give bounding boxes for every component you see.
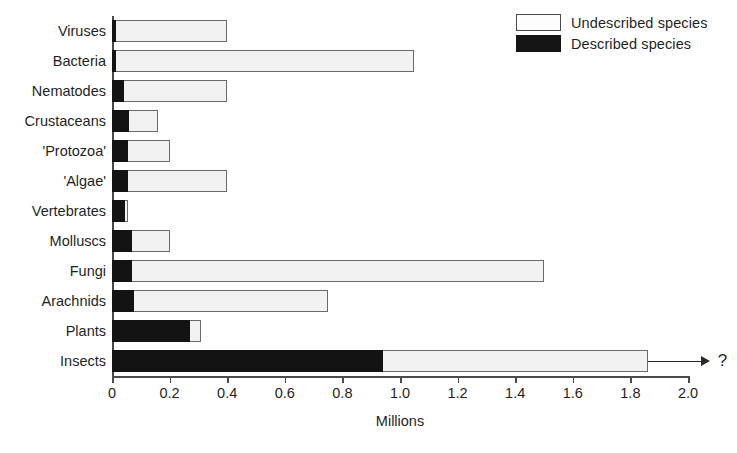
bar-row[interactable]: Plants [112,320,688,342]
bar-segment-described[interactable] [112,200,125,222]
x-tick-0 [112,376,114,383]
bar-segment-described[interactable] [112,290,134,312]
category-label-wrap: Molluscs [0,230,106,252]
category-label-wrap: Nematodes [0,80,106,102]
overflow-arrow-icon [648,350,710,372]
category-label-arachnids: Arachnids [0,290,106,312]
bar-segment-undescribed[interactable] [112,80,227,102]
bar-segment-undescribed[interactable] [112,20,227,42]
bar-row[interactable]: Crustaceans [112,110,688,132]
bar-row[interactable]: Fungi [112,260,688,282]
bar-segment-described[interactable] [112,20,116,42]
bar-row[interactable]: Nematodes [112,80,688,102]
bar-segment-described[interactable] [112,350,383,372]
x-tick-3 [285,376,287,383]
bar-segment-described[interactable] [112,80,124,102]
bar-row[interactable]: Arachnids [112,290,688,312]
x-tick-6 [458,376,460,383]
bar-row[interactable]: Viruses [112,20,688,42]
category-label-wrap: 'Protozoa' [0,140,106,162]
category-label-wrap: Crustaceans [0,110,106,132]
bar-segment-undescribed[interactable] [112,260,544,282]
bar-segment-undescribed[interactable] [112,290,328,312]
x-tick-4 [342,376,344,383]
bar-row[interactable]: 'Algae' [112,170,688,192]
bar-row[interactable]: Molluscs [112,230,688,252]
bar-segment-described[interactable] [112,260,132,282]
x-tick-10 [688,376,690,383]
overflow-question-mark: ? [718,350,727,372]
arrow-shaft [648,361,701,362]
x-tick-8 [573,376,575,383]
x-tick-2 [227,376,229,383]
bar-segment-described[interactable] [112,110,129,132]
bar-segment-described[interactable] [112,320,190,342]
x-tick-5 [400,376,402,383]
x-tick-label-2: 0.4 [217,385,237,401]
x-tick-label-9: 1.8 [620,385,640,401]
category-label-viruses: Viruses [0,20,106,42]
category-label-wrap: Plants [0,320,106,342]
x-tick-label-1: 0.2 [160,385,180,401]
category-label-wrap: 'Algae' [0,170,106,192]
x-tick-label-0: 0 [108,385,116,401]
bar-segment-described[interactable] [112,50,116,72]
x-tick-label-5: 1.0 [390,385,410,401]
plot-area: 00.20.40.60.81.01.21.41.61.82.0 VirusesB… [112,16,688,376]
arrow-head [701,356,710,366]
category-label-wrap: Vertebrates [0,200,106,222]
x-tick-1 [170,376,172,383]
bar-segment-described[interactable] [112,170,128,192]
bar-row[interactable]: Bacteria [112,50,688,72]
category-label-fungi: Fungi [0,260,106,282]
category-label-wrap: Fungi [0,260,106,282]
x-axis-title: Millions [112,413,688,429]
x-tick-label-10: 2.0 [678,385,698,401]
bar-row[interactable]: Insects? [112,350,688,372]
x-tick-7 [515,376,517,383]
bar-row[interactable]: 'Protozoa' [112,140,688,162]
category-label-protozoa: 'Protozoa' [0,140,106,162]
x-tick-9 [630,376,632,383]
species-diversity-chart: Undescribed species Described species 00… [0,0,737,453]
category-label-plants: Plants [0,320,106,342]
bar-segment-undescribed[interactable] [112,170,227,192]
category-label-bacteria: Bacteria [0,50,106,72]
category-label-nematodes: Nematodes [0,80,106,102]
x-tick-label-3: 0.6 [275,385,295,401]
category-label-insects: Insects [0,350,106,372]
category-label-molluscs: Molluscs [0,230,106,252]
x-tick-label-4: 0.8 [332,385,352,401]
bar-row[interactable]: Vertebrates [112,200,688,222]
bar-segment-undescribed[interactable] [112,50,414,72]
x-tick-label-7: 1.4 [505,385,525,401]
category-label-algae: 'Algae' [0,170,106,192]
bar-segment-described[interactable] [112,230,132,252]
bar-segment-described[interactable] [112,140,128,162]
x-tick-label-8: 1.6 [563,385,583,401]
category-label-vertebrates: Vertebrates [0,200,106,222]
category-label-wrap: Insects [0,350,106,372]
category-label-wrap: Bacteria [0,50,106,72]
category-label-crustaceans: Crustaceans [0,110,106,132]
x-tick-label-6: 1.2 [448,385,468,401]
category-label-wrap: Viruses [0,20,106,42]
category-label-wrap: Arachnids [0,290,106,312]
